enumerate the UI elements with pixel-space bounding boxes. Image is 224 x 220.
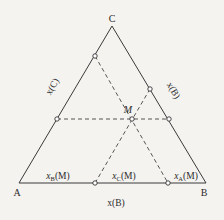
marker-right-upper: [148, 87, 152, 91]
vertex-label-b: B: [201, 187, 208, 198]
marker-point-m: [130, 117, 134, 121]
segment-label-xc-m: xC(M): [111, 171, 135, 182]
vertex-label-c: C: [109, 13, 116, 24]
axis-label-left-side: x(C): [44, 76, 62, 97]
segment-label-xa-m: xA(M): [173, 171, 198, 182]
triangle-outline: [19, 26, 206, 183]
segment-label-xb-m: xB(M): [45, 171, 69, 182]
marker-left-mid: [55, 117, 59, 121]
ternary-diagram: C A B M x(C) x(B) x(B) xB(M) xC(M) xA(M): [0, 0, 224, 220]
marker-bottom-left: [93, 181, 97, 185]
axis-label-right-side: x(B): [164, 80, 182, 101]
marker-bottom-right: [166, 181, 170, 185]
dashed-line-parallel-ac: [95, 89, 150, 183]
marker-right-mid: [167, 117, 171, 121]
point-label-m: M: [123, 104, 133, 115]
marker-left-upper: [93, 54, 97, 58]
vertex-label-a: A: [13, 187, 21, 198]
axis-label-bottom: x(B): [107, 198, 124, 209]
